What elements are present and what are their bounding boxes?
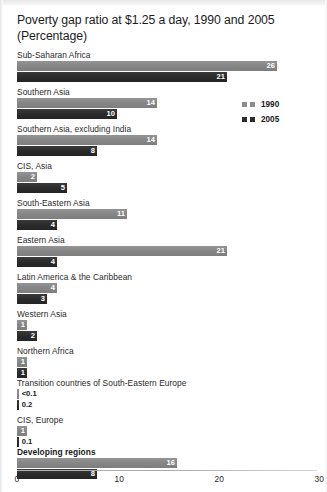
bar-group: Latin America & the Caribbean43	[17, 272, 317, 304]
bar-group: CIS, Europe10.1	[17, 415, 317, 447]
page-subtitle: (Percentage)	[17, 29, 313, 45]
bar-row: 4	[17, 283, 317, 293]
category-label: Western Asia	[17, 309, 317, 319]
bar-value-label: 1	[17, 426, 27, 436]
bar-value-label: 16	[17, 458, 177, 468]
category-label: CIS, Asia	[17, 161, 317, 171]
bar-1990[interactable]	[17, 389, 19, 399]
category-label: South-Eastern Asia	[17, 198, 317, 208]
x-tick-label: 30	[315, 474, 324, 485]
bar-row: 4	[17, 257, 317, 267]
bar-group: Transition countries of South-Eastern Eu…	[17, 378, 317, 410]
bar-value-label: 14	[17, 135, 157, 145]
page-title: Poverty gap ratio at $1.25 a day, 1990 a…	[17, 13, 313, 29]
x-tick-label: 0	[15, 474, 20, 485]
bar-value-label: 2	[17, 172, 37, 182]
bar-group: Eastern Asia214	[17, 235, 317, 267]
bar-value-label: 0.2	[22, 400, 33, 410]
bar-row: 1	[17, 368, 317, 378]
bar-row: 0.1	[17, 437, 317, 447]
bar-value-label: 1	[17, 368, 27, 378]
bar-row: 14	[17, 135, 317, 145]
bar-value-label: 3	[17, 294, 47, 304]
category-label: Northern Africa	[17, 346, 317, 356]
bar-row: 5	[17, 183, 317, 193]
bar-value-label: 21	[17, 246, 227, 256]
bar-group: Western Asia12	[17, 309, 317, 341]
bar-value-label: 4	[17, 283, 57, 293]
bar-row: 3	[17, 294, 317, 304]
bar-value-label: 11	[17, 209, 127, 219]
category-label: Transition countries of South-Eastern Eu…	[17, 378, 317, 388]
x-tick-label: 10	[115, 474, 124, 485]
category-label: Developing regions	[17, 447, 317, 457]
category-label: Southern Asia	[17, 87, 317, 97]
bar-row: 2	[17, 172, 317, 182]
bar-value-label: 0.1	[22, 437, 33, 447]
category-label: CIS, Europe	[17, 415, 317, 425]
bar-group: Sub-Saharan Africa2621	[17, 50, 317, 82]
x-axis-tick-labels: 0102030	[0, 474, 327, 490]
bar-row: 4	[17, 220, 317, 230]
bar-row: 11	[17, 209, 317, 219]
bar-value-label: 21	[17, 72, 227, 82]
bar-row: 10	[17, 109, 317, 119]
x-axis-line	[17, 470, 317, 471]
bar-group: Northern Africa11	[17, 346, 317, 378]
bar-value-label: 8	[17, 146, 97, 156]
bar-value-label: 2	[17, 331, 37, 341]
bar-row: 8	[17, 146, 317, 156]
bar-value-label: 4	[17, 257, 57, 267]
bar-row: 1	[17, 426, 317, 436]
bar-value-label: <0.1	[22, 389, 37, 399]
bar-value-label: 14	[17, 98, 157, 108]
bar-value-label: 1	[17, 357, 27, 367]
bar-row: 26	[17, 61, 317, 71]
x-tick-label: 20	[215, 474, 224, 485]
bar-group: Southern Asia, excluding India148	[17, 124, 317, 156]
title-block: Poverty gap ratio at $1.25 a day, 1990 a…	[17, 13, 313, 44]
bar-value-label: 10	[17, 109, 117, 119]
bar-row: 1	[17, 357, 317, 367]
category-label: Latin America & the Caribbean	[17, 272, 317, 282]
chart-page: Poverty gap ratio at $1.25 a day, 1990 a…	[0, 0, 327, 492]
bar-group: CIS, Asia25	[17, 161, 317, 193]
bar-group: Southern Asia1410	[17, 87, 317, 119]
bar-row: <0.1	[17, 389, 317, 399]
category-label: Sub-Saharan Africa	[17, 50, 317, 60]
bar-row: 1	[17, 320, 317, 330]
bar-value-label: 4	[17, 220, 57, 230]
bar-row: 21	[17, 72, 317, 82]
bar-value-label: 1	[17, 320, 27, 330]
bar-row: 21	[17, 246, 317, 256]
bar-2005[interactable]	[17, 400, 19, 410]
bar-value-label: 5	[17, 183, 67, 193]
category-label: Eastern Asia	[17, 235, 317, 245]
bar-row: 0.2	[17, 400, 317, 410]
bar-value-label: 26	[17, 61, 277, 71]
bar-row: 2	[17, 331, 317, 341]
scan-artifact-top	[0, 0, 327, 6]
category-label: Southern Asia, excluding India	[17, 124, 317, 134]
bar-2005[interactable]	[17, 437, 19, 447]
bar-group: South-Eastern Asia114	[17, 198, 317, 230]
bar-row: 16	[17, 458, 317, 468]
bar-row: 14	[17, 98, 317, 108]
plot-area: Sub-Saharan Africa2621Southern Asia1410S…	[0, 50, 327, 470]
